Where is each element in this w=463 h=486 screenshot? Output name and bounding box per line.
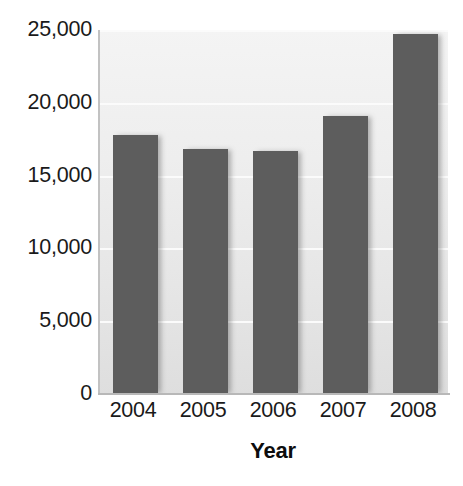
x-axis-tick-labels: 20042005200620072008 <box>98 400 448 434</box>
x-axis-title: Year <box>98 438 448 464</box>
x-tick-label-2004: 2004 <box>110 400 157 422</box>
bar-chart-figure: 25,00020,00015,00010,0005,0000 200420052… <box>0 0 463 486</box>
bar-2007[interactable] <box>323 116 368 394</box>
bar-2006[interactable] <box>253 151 298 394</box>
bars-layer <box>100 30 448 394</box>
x-axis-line <box>98 393 450 395</box>
bar-2005[interactable] <box>183 149 228 394</box>
y-tick-label-5000: 5,000 <box>0 310 92 332</box>
x-tick-label-2006: 2006 <box>250 400 297 422</box>
y-axis-tick-labels: 25,00020,00015,00010,0005,0000 <box>0 0 92 486</box>
bar-2004[interactable] <box>113 135 158 394</box>
y-tick-label-20000: 20,000 <box>0 92 92 114</box>
y-tick-label-25000: 25,000 <box>0 19 92 41</box>
bar-2008[interactable] <box>393 34 438 394</box>
plot-area <box>98 30 448 394</box>
x-tick-label-2007: 2007 <box>320 400 367 422</box>
y-tick-label-0: 0 <box>0 383 92 405</box>
y-tick-label-10000: 10,000 <box>0 238 92 260</box>
x-tick-label-2008: 2008 <box>390 400 437 422</box>
x-tick-label-2005: 2005 <box>180 400 227 422</box>
y-tick-label-15000: 15,000 <box>0 165 92 187</box>
